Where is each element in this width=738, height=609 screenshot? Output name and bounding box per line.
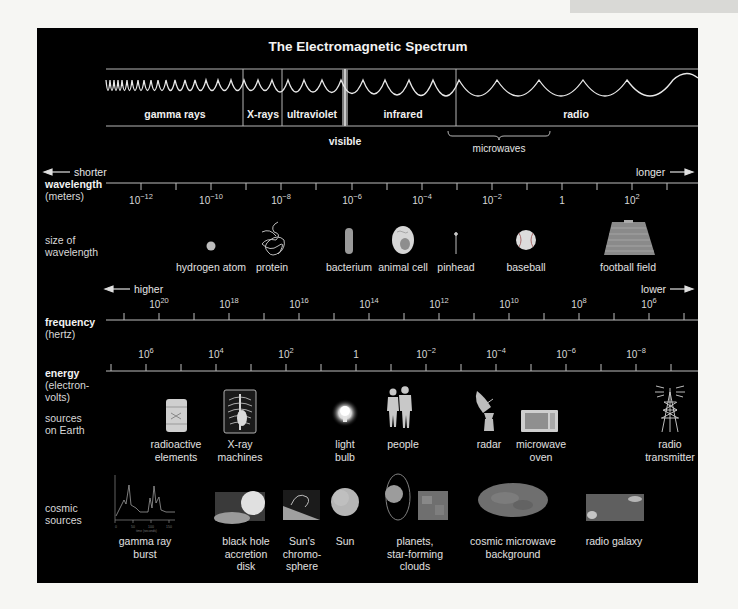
baseball-icon (516, 230, 536, 250)
frequency-name: frequency (45, 316, 95, 328)
energy-unit-line2: volts) (45, 391, 89, 403)
size-item-hydrogen-atom: hydrogen atom (176, 261, 246, 274)
lower-label: lower (641, 283, 666, 295)
wavelength-axis-title: wavelength (meters) (45, 178, 102, 202)
sources-on-earth-title: sources on Earth (45, 412, 85, 436)
energy-tick-label: 104 (208, 349, 223, 360)
size-item-baseball: baseball (506, 261, 545, 274)
frequency-axis (106, 313, 698, 320)
size-item-pinhead: pinhead (437, 261, 474, 274)
earth-item-radar: radar (477, 438, 502, 451)
size-title-line1: size of (45, 234, 98, 246)
wavelength-tick-label: 10−4 (412, 195, 432, 206)
energy-axis (106, 364, 698, 371)
pinhead-icon (455, 233, 458, 254)
cosmic-title-line1: cosmic (45, 502, 82, 514)
frequency-axis-title: frequency (hertz) (45, 316, 95, 340)
band-label-radio: radio (563, 108, 589, 120)
radio-galaxy-icon (586, 494, 644, 521)
black-hole-accretion-disk-icon (214, 491, 265, 524)
band-label-x-rays: X-rays (247, 108, 279, 120)
hydrogen-atom-icon (207, 242, 216, 251)
shorter-arrow-icon (44, 169, 70, 175)
protein-icon (262, 222, 284, 255)
radioactive-barrel-icon (166, 399, 187, 432)
wavelength-axis (106, 183, 698, 190)
frequency-tick-label: 106 (641, 299, 656, 310)
planets-clouds-icon (385, 474, 448, 520)
energy-tick-label: 10−8 (626, 349, 646, 360)
wavelength-tick-label: 10−8 (271, 195, 291, 206)
higher-arrow-icon (105, 286, 130, 292)
sun-chromosphere-icon (283, 490, 320, 520)
sun-icon (331, 488, 359, 516)
energy-tick-label: 102 (278, 349, 293, 360)
cosmic-item-planets-star-forming-clouds: planets,star-formingclouds (387, 535, 443, 573)
radar-dish-icon (476, 391, 494, 431)
frequency-tick-label: 1010 (499, 299, 518, 310)
shorter-label: shorter (74, 166, 107, 178)
cosmic-sources-title: cosmic sources (45, 502, 82, 526)
wavelength-tick-label: 10−2 (482, 195, 502, 206)
xray-machine-icon (224, 390, 256, 433)
visible-label: visible (329, 135, 362, 147)
wavelength-tick-label: 10−6 (342, 195, 362, 206)
cosmic-item-sun: Sun (336, 535, 355, 548)
cosmic-item-suns-chromosphere: Sun'schromo-sphere (283, 535, 322, 573)
earth-title-line2: on Earth (45, 424, 85, 436)
microwave-oven-icon (521, 410, 558, 432)
gamma-ray-burst-plot-icon (115, 475, 175, 523)
wavelength-name: wavelength (45, 178, 102, 190)
wavelength-unit: (meters) (45, 190, 102, 202)
longer-arrow-icon (670, 169, 693, 175)
cmb-map-icon (478, 483, 548, 517)
frequency-tick-label: 1014 (359, 299, 378, 310)
wavelength-tick-label: 10−10 (199, 195, 223, 206)
cosmic-item-radio-galaxy: radio galaxy (586, 535, 643, 548)
earth-item-microwave-oven: microwaveoven (516, 438, 566, 463)
cosmic-item-cosmic-microwave-background: cosmic microwavebackground (470, 535, 556, 560)
energy-tick-label: 106 (138, 349, 153, 360)
energy-tick-label: 1 (353, 349, 359, 360)
size-title-line2: wavelength (45, 246, 98, 258)
frequency-tick-label: 1020 (149, 299, 168, 310)
cosmic-title-line2: sources (45, 514, 82, 526)
light-bulb-icon (331, 399, 359, 427)
higher-label: higher (134, 283, 163, 295)
size-item-football-field: football field (600, 261, 656, 274)
earth-item-radioactive-elements: radioactiveelements (151, 438, 202, 463)
band-label-gamma-rays: gamma rays (144, 108, 205, 120)
people-icon (387, 386, 412, 428)
band-label-ultraviolet: ultraviolet (287, 108, 337, 120)
frequency-tick-label: 1012 (429, 299, 448, 310)
football-field-icon (604, 220, 655, 255)
earth-item-xray-machines: X-raymachines (218, 438, 263, 463)
wavelength-tick-label: 10−12 (129, 195, 153, 206)
energy-name: energy (45, 367, 89, 379)
microwaves-brace (448, 131, 550, 140)
energy-tick-label: 10−4 (486, 349, 506, 360)
gamma-plot-x-tick-3: 150 (166, 525, 172, 529)
earth-title-line1: sources (45, 412, 85, 424)
energy-unit-line1: (electron- (45, 379, 89, 391)
earth-item-radio-transmitter: radiotransmitter (645, 438, 695, 463)
gamma-plot-x-tick-1: 50 (131, 525, 135, 529)
earth-item-light-bulb: lightbulb (335, 438, 355, 463)
size-item-protein: protein (256, 261, 288, 274)
energy-axis-title: energy (electron- volts) (45, 367, 89, 403)
energy-tick-label: 10−6 (556, 349, 576, 360)
frequency-unit: (hertz) (45, 328, 95, 340)
em-wave (106, 73, 698, 96)
lower-arrow-icon (670, 286, 693, 292)
radio-transmitter-icon (655, 386, 685, 432)
frequency-tick-label: 108 (571, 299, 586, 310)
microwaves-label: microwaves (473, 143, 526, 155)
energy-tick-label: 10−2 (416, 349, 436, 360)
wavelength-tick-label: 1 (559, 195, 565, 206)
size-of-wavelength-title: size of wavelength (45, 234, 98, 258)
cosmic-item-gamma-ray-burst: gamma rayburst (119, 535, 172, 560)
cosmic-item-black-hole-accretion-disk: black holeaccretiondisk (222, 535, 269, 573)
longer-label: longer (636, 166, 665, 178)
gamma-plot-x-label: time (seconds) (136, 529, 157, 533)
frequency-tick-label: 1016 (289, 299, 308, 310)
